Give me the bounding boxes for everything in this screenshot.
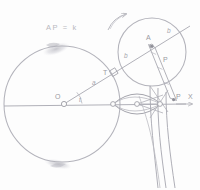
label-radius-b-left: b <box>124 52 128 59</box>
label-point-t: T <box>103 69 108 76</box>
figure-canvas: AP = k O t a T b A b P P X <box>0 0 200 190</box>
equation-label: AP = k <box>46 23 78 32</box>
label-point-a: A <box>146 34 151 41</box>
rotation-arrow-icon <box>108 14 127 30</box>
label-radius-b-right: b <box>167 27 171 34</box>
segment-strip-ap <box>149 45 177 102</box>
label-point-p-axis: P <box>176 93 181 100</box>
label-angle-t: t <box>79 96 81 103</box>
label-segment-p: P <box>163 56 168 63</box>
point-o <box>61 101 66 106</box>
label-point-o: O <box>55 93 61 100</box>
label-axis-x: X <box>188 93 193 100</box>
line-o-to-a <box>64 26 190 104</box>
label-radius-a: a <box>92 79 96 86</box>
smudge-top <box>41 39 71 58</box>
